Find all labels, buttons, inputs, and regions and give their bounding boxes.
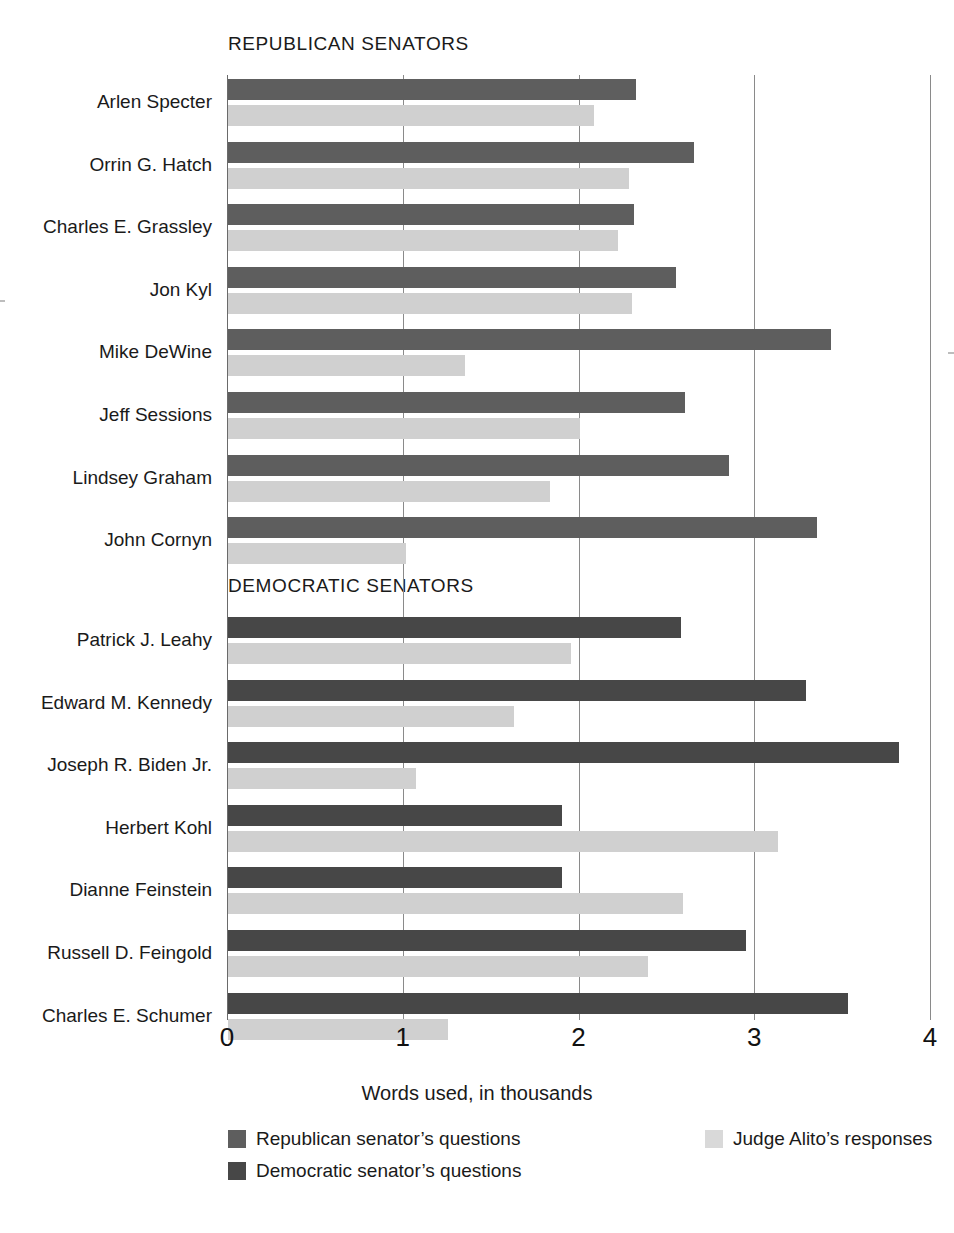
legend-item-alito-responses: Judge Alito’s responses (705, 1128, 932, 1150)
tick-label-4: 4 (923, 1022, 937, 1053)
bar-alito-response (228, 230, 618, 251)
bar-alito-response (228, 1019, 448, 1040)
bar-alito-response (228, 706, 514, 727)
bar-alito-response (228, 893, 683, 914)
bar-senator-questions (228, 867, 562, 888)
legend-label-republican: Republican senator’s questions (256, 1128, 520, 1150)
bar-senator-questions (228, 617, 681, 638)
republican-section-heading: REPUBLICAN SENATORS (228, 33, 469, 55)
chart-legend: Republican senator’s questions Judge Ali… (228, 1128, 940, 1192)
legend-label-alito: Judge Alito’s responses (733, 1128, 932, 1150)
tick-label-1: 1 (396, 1022, 410, 1053)
scan-edge-mark-left (0, 300, 5, 302)
category-label: Patrick J. Leahy (77, 629, 212, 651)
category-label: Arlen Specter (97, 91, 212, 113)
tick-label-2: 2 (571, 1022, 585, 1053)
bar-senator-questions (228, 204, 634, 225)
category-label: Orrin G. Hatch (90, 154, 212, 176)
scan-edge-mark-right (948, 352, 954, 354)
bar-alito-response (228, 105, 594, 126)
tick-label-3: 3 (747, 1022, 761, 1053)
category-label: Jon Kyl (150, 279, 212, 301)
bar-alito-response (228, 768, 416, 789)
bar-alito-response (228, 956, 648, 977)
category-label: Herbert Kohl (105, 817, 212, 839)
bar-senator-questions (228, 455, 729, 476)
category-label: Jeff Sessions (99, 404, 212, 426)
chart-plot-area (227, 75, 930, 1020)
bar-alito-response (228, 543, 406, 564)
legend-row-1: Republican senator’s questions Judge Ali… (228, 1128, 940, 1160)
category-label: Lindsey Graham (73, 467, 212, 489)
category-label: Joseph R. Biden Jr. (47, 754, 212, 776)
bar-senator-questions (228, 142, 694, 163)
category-label: Dianne Feinstein (69, 879, 212, 901)
category-label-column: Arlen SpecterOrrin G. HatchCharles E. Gr… (0, 75, 212, 1020)
category-label: John Cornyn (104, 529, 212, 551)
bar-alito-response (228, 355, 465, 376)
gridline-3 (754, 75, 755, 1020)
bar-senator-questions (228, 79, 636, 100)
bar-alito-response (228, 643, 571, 664)
category-label: Russell D. Feingold (47, 942, 212, 964)
bar-senator-questions (228, 742, 899, 763)
category-label: Charles E. Schumer (42, 1005, 212, 1027)
tick-label-0: 0 (220, 1022, 234, 1053)
category-label: Charles E. Grassley (43, 216, 212, 238)
legend-row-2: Democratic senator’s questions (228, 1160, 940, 1192)
bar-senator-questions (228, 267, 676, 288)
bar-senator-questions (228, 680, 806, 701)
bar-senator-questions (228, 392, 685, 413)
legend-item-republican-questions: Republican senator’s questions (228, 1128, 520, 1150)
gridline-4 (930, 75, 931, 1020)
category-label: Edward M. Kennedy (41, 692, 212, 714)
legend-swatch-republican (228, 1130, 246, 1148)
bar-alito-response (228, 293, 632, 314)
legend-item-democratic-questions: Democratic senator’s questions (228, 1160, 521, 1182)
legend-swatch-democratic (228, 1162, 246, 1180)
axis-title: Words used, in thousands (0, 1082, 954, 1105)
legend-label-democratic: Democratic senator’s questions (256, 1160, 521, 1182)
bar-senator-questions (228, 805, 562, 826)
category-label: Mike DeWine (99, 341, 212, 363)
bar-alito-response (228, 418, 580, 439)
bar-senator-questions (228, 517, 817, 538)
bar-senator-questions (228, 930, 746, 951)
bar-alito-response (228, 481, 550, 502)
bar-alito-response (228, 168, 629, 189)
legend-swatch-alito (705, 1130, 723, 1148)
bar-senator-questions (228, 993, 848, 1014)
bar-alito-response (228, 831, 778, 852)
bar-senator-questions (228, 329, 831, 350)
